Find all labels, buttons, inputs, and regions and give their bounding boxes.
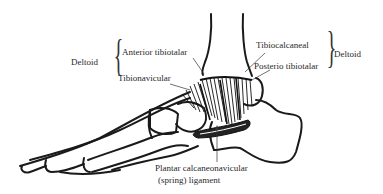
phalanx-distal bbox=[21, 166, 46, 173]
label-plantar-line2: (spring) ligament bbox=[158, 175, 220, 186]
tibia-bone bbox=[202, 14, 211, 75]
leader-tibionavicular bbox=[170, 84, 190, 90]
cuneiform-bone bbox=[150, 108, 178, 134]
dorsal-outline-2 bbox=[30, 98, 190, 160]
label-tibionavicular: Tibionavicular bbox=[118, 73, 171, 84]
spring-ligament bbox=[193, 120, 250, 138]
label-plantar-line1: Plantar calcaneonavicular bbox=[155, 163, 248, 174]
label-posterio-tibiotalar: Posterio tibiotalar bbox=[254, 61, 318, 72]
label-deltoid-left: Deltoid bbox=[71, 57, 98, 68]
label-anterior-tibiotalar: Anterior tibiotalar bbox=[122, 47, 187, 58]
brace-right: } bbox=[327, 26, 337, 70]
leader-anterior-tibiotalar bbox=[193, 58, 204, 74]
deltoid-ligament-fibers bbox=[182, 77, 252, 124]
label-deltoid-right: Deltoid bbox=[334, 49, 361, 60]
navicular-bone bbox=[176, 102, 206, 132]
phalanx-proximal bbox=[45, 160, 84, 172]
label-tibiocalcaneal: Tibiocalcaneal bbox=[256, 40, 309, 51]
